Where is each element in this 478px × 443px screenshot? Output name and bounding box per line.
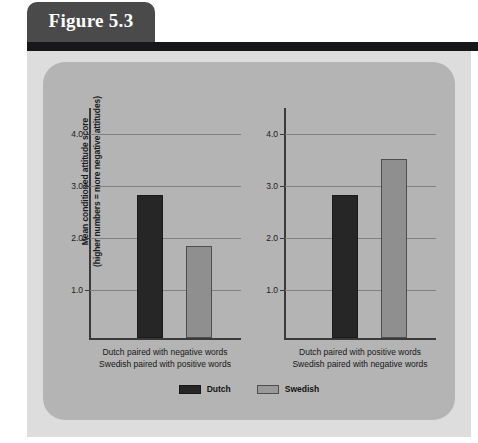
- tick-mark-right-2: [280, 238, 285, 239]
- figure-number-tab: Figure 5.3: [27, 2, 155, 42]
- bar-right-swedish: [381, 159, 407, 338]
- legend-entry-dutch: Dutch: [179, 384, 231, 394]
- legend-label-swedish: Swedish: [285, 384, 319, 394]
- tick-mark-right-1: [280, 290, 285, 291]
- legend-entry-swedish: Swedish: [257, 384, 319, 394]
- caption-right-line-2: Swedish paired with negative words: [265, 358, 455, 370]
- legend-swatch-swedish: [257, 385, 279, 394]
- figure-frame: Mean conditioned attitude score (higher …: [27, 51, 471, 437]
- x-axis-line-left: [89, 338, 241, 340]
- tick-mark-right-3: [280, 186, 285, 187]
- gridline-left-1: [89, 290, 241, 291]
- tick-label-left-2: 2.0: [71, 233, 83, 243]
- chart-panel-left: 4.0 3.0 2.0 1.0: [89, 108, 241, 340]
- caption-right-line-1: Dutch paired with positive words: [265, 346, 455, 358]
- tick-label-left-3: 3.0: [71, 181, 83, 191]
- gridline-left-4: [89, 134, 241, 135]
- x-axis-line-right: [284, 338, 436, 340]
- tick-mark-left-4: [85, 134, 90, 135]
- tick-mark-left-3: [85, 186, 90, 187]
- tick-mark-left-2: [85, 238, 90, 239]
- category-caption-left: Dutch paired with negative words Swedish…: [70, 346, 260, 370]
- tick-label-right-1: 1.0: [266, 285, 278, 295]
- chart-panel-right: 4.0 3.0 2.0 1.0: [284, 108, 436, 340]
- gridline-left-3: [89, 186, 241, 187]
- chart-plot-panel: Mean conditioned attitude score (higher …: [43, 62, 455, 420]
- chart-legend: Dutch Swedish: [43, 384, 455, 394]
- bar-left-dutch: [137, 195, 163, 338]
- legend-label-dutch: Dutch: [207, 384, 231, 394]
- bar-right-dutch: [332, 195, 358, 338]
- category-caption-right: Dutch paired with positive words Swedish…: [265, 346, 455, 370]
- caption-left-line-1: Dutch paired with negative words: [70, 346, 260, 358]
- tick-label-left-4: 4.0: [71, 129, 83, 139]
- tick-label-left-1: 1.0: [71, 285, 83, 295]
- tick-label-right-4: 4.0: [266, 129, 278, 139]
- tick-label-right-3: 3.0: [266, 181, 278, 191]
- bar-left-swedish: [186, 246, 212, 339]
- tick-mark-right-4: [280, 134, 285, 135]
- gridline-right-3: [284, 186, 436, 187]
- figure-number-label: Figure 5.3: [49, 10, 134, 34]
- legend-swatch-dutch: [179, 385, 201, 394]
- gridline-right-1: [284, 290, 436, 291]
- figure-header-rule: [27, 42, 478, 51]
- caption-left-line-2: Swedish paired with positive words: [70, 358, 260, 370]
- tick-mark-left-1: [85, 290, 90, 291]
- gridline-right-2: [284, 238, 436, 239]
- gridline-right-4: [284, 134, 436, 135]
- tick-label-right-2: 2.0: [266, 233, 278, 243]
- y-axis-line-left: [89, 108, 91, 340]
- y-axis-line-right: [284, 108, 286, 340]
- gridline-left-2: [89, 238, 241, 239]
